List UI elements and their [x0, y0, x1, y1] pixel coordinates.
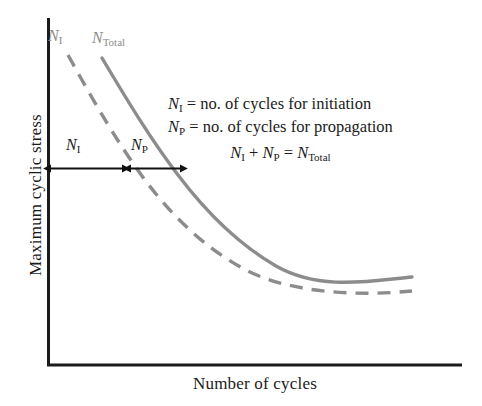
legend-eq-term1-base: N [230, 143, 241, 162]
definitions-legend: NI = no. of cycles for initiation NP = n… [168, 92, 393, 164]
legend-line-equation: NI + NP = NTotal [168, 139, 393, 164]
legend-line2-text: = no. of cycles for propagation [185, 117, 393, 136]
legend-line2-symbol-base: N [168, 117, 179, 136]
legend-eq-term1-sub: I [241, 151, 245, 163]
span-label-n-propagation: NP [131, 136, 148, 154]
span-label-n-propagation-sub: P [142, 143, 148, 155]
curve-n-initiation [68, 55, 412, 293]
span-label-n-initiation-sub: I [77, 143, 81, 155]
legend-eq-term3-base: N [297, 143, 308, 162]
span-label-n-propagation-base: N [131, 136, 142, 153]
legend-line1-symbol-sub: I [179, 102, 183, 114]
plot-canvas [0, 0, 482, 406]
x-axis-title: Number of cycles [48, 374, 462, 394]
legend-eq-term3-sub: Total [308, 151, 330, 163]
span-label-n-initiation: NI [66, 136, 80, 154]
y-axis-title: Maximum cyclic stress [26, 45, 46, 345]
span-label-n-initiation-base: N [66, 136, 77, 153]
curve-label-n-total: NTotal [92, 29, 125, 47]
legend-eq-term2-sub: P [273, 151, 279, 163]
legend-line2-symbol-sub: P [179, 125, 185, 137]
curve-label-n-initiation: NI [48, 27, 62, 45]
fatigue-s-n-schematic-figure: NI NTotal NI NP NI = no. of cycles for i… [0, 0, 482, 406]
legend-eq-operator-equals: = [280, 143, 298, 162]
curve-label-n-total-base: N [92, 29, 103, 46]
legend-line1-text: = no. of cycles for initiation [183, 94, 371, 113]
legend-line-propagation: NP = no. of cycles for propagation [168, 115, 393, 138]
curve-label-n-initiation-sub: I [59, 34, 63, 46]
legend-eq-term2-base: N [262, 143, 273, 162]
curve-label-n-total-sub: Total [103, 36, 125, 48]
legend-line1-symbol-base: N [168, 94, 179, 113]
legend-line-initiation: NI = no. of cycles for initiation [168, 92, 393, 115]
legend-eq-operator-plus: + [245, 143, 263, 162]
curve-label-n-initiation-base: N [48, 27, 59, 44]
